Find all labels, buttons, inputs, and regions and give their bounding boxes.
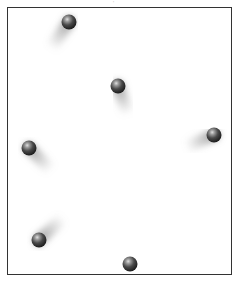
ball [32, 233, 47, 248]
ball [123, 257, 138, 272]
ball [22, 141, 37, 156]
motion-diagram [0, 0, 242, 281]
motion-trails [29, 22, 214, 264]
ball [62, 15, 77, 30]
ball [207, 128, 222, 143]
ball [111, 79, 126, 94]
